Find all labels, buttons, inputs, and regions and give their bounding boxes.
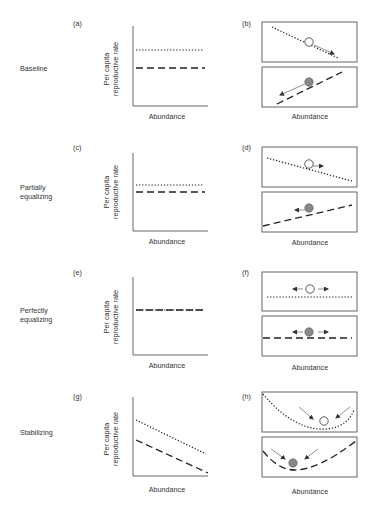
arrow-icon bbox=[299, 407, 313, 419]
open-circle-icon bbox=[320, 417, 328, 425]
panel-c-plot bbox=[133, 153, 208, 231]
arrow-icon bbox=[280, 84, 305, 95]
open-circle-icon bbox=[306, 285, 314, 293]
dotted-species-curve bbox=[263, 394, 354, 429]
open-circle-icon bbox=[305, 38, 313, 46]
figure-canvas bbox=[0, 0, 378, 509]
dashed-species-line bbox=[277, 72, 342, 104]
dashed-species-line bbox=[136, 440, 208, 473]
panel-g-plot bbox=[133, 397, 208, 476]
top-box bbox=[262, 392, 357, 432]
panel-e-plot bbox=[133, 277, 208, 355]
open-circle-icon bbox=[305, 160, 313, 168]
panel-d-diagram bbox=[262, 147, 357, 232]
filled-circle-icon bbox=[305, 328, 313, 336]
axes bbox=[133, 277, 208, 355]
bottom-box bbox=[262, 437, 357, 477]
dotted-species-line bbox=[136, 420, 206, 454]
axes bbox=[133, 26, 208, 106]
arrow-icon bbox=[271, 449, 285, 459]
panel-h-diagram bbox=[262, 392, 357, 477]
arrow-icon bbox=[336, 407, 350, 418]
panel-f-diagram bbox=[262, 272, 357, 356]
arrow-icon bbox=[314, 45, 334, 54]
filled-circle-icon bbox=[289, 459, 297, 467]
filled-circle-icon bbox=[305, 78, 313, 86]
bottom-box bbox=[262, 67, 357, 107]
arrow-icon bbox=[305, 449, 318, 459]
filled-circle-icon bbox=[305, 204, 313, 212]
panel-b-diagram bbox=[262, 22, 357, 107]
panel-a-plot bbox=[133, 26, 208, 106]
